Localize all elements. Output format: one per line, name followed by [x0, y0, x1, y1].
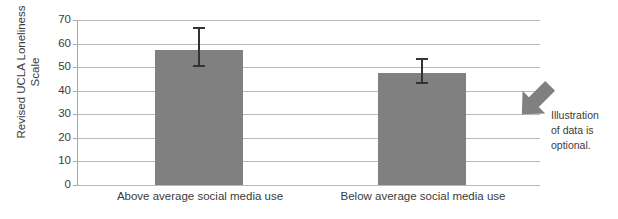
y-tick-mark-70 [73, 20, 78, 21]
y-tick-label-0: 0 [41, 178, 71, 190]
illustration-note-line3: optional. [551, 138, 617, 153]
y-tick-mark-20 [73, 138, 78, 139]
y-axis-title-line1: Revised UCLA Loneliness [15, 6, 27, 139]
y-tick-mark-40 [73, 91, 78, 92]
gridline-20 [77, 138, 540, 139]
y-tick-label-50: 50 [41, 60, 71, 72]
gridline-0-baseline [77, 185, 540, 186]
gridline-70 [77, 20, 540, 21]
y-tick-label-30: 30 [41, 107, 71, 119]
bar-above-average-social-media-use[interactable] [155, 50, 243, 186]
gridline-50 [77, 67, 540, 68]
y-tick-label-10: 10 [41, 154, 71, 166]
bar-below-average-social-media-use[interactable] [378, 73, 466, 185]
error-stem [421, 58, 423, 84]
error-stem [198, 27, 200, 67]
y-tick-mark-10 [73, 161, 78, 162]
plot-area [77, 20, 540, 185]
error-cap-lower [416, 82, 428, 84]
error-cap-lower [193, 65, 205, 67]
gridline-60 [77, 44, 540, 45]
gridline-40 [77, 91, 540, 92]
error-bar-below-average-social-media-use [378, 58, 466, 84]
gridline-30 [77, 114, 540, 115]
illustration-note-line2: of data is [551, 123, 617, 138]
illustration-note: Illustration of data is optional. [551, 108, 617, 153]
bar-chart: Revised UCLA Loneliness Scale 0 10 20 30… [0, 0, 618, 219]
y-tick-label-20: 20 [41, 131, 71, 143]
y-tick-label-40: 40 [41, 84, 71, 96]
illustration-note-line1: Illustration [551, 108, 617, 123]
y-tick-mark-50 [73, 67, 78, 68]
x-axis-label-below-average: Below average social media use [323, 190, 523, 202]
y-tick-label-60: 60 [41, 37, 71, 49]
gridline-10 [77, 161, 540, 162]
y-tick-mark-60 [73, 44, 78, 45]
y-axis-title-line2: Scale [28, 0, 42, 152]
y-tick-mark-0 [73, 185, 78, 186]
y-tick-label-70: 70 [41, 13, 71, 25]
error-bar-above-average-social-media-use [155, 27, 243, 67]
x-axis-label-above-average: Above average social media use [100, 190, 300, 202]
y-tick-mark-30 [73, 114, 78, 115]
